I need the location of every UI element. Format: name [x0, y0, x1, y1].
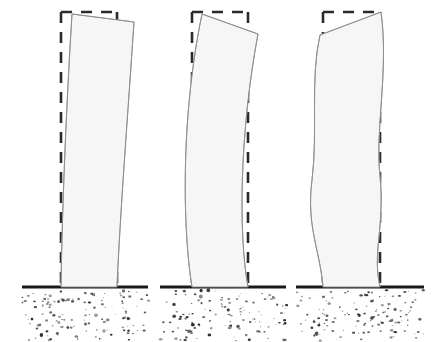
- soil-speckle: [371, 292, 374, 294]
- soil-speckle: [296, 305, 299, 307]
- soil-speckle: [194, 327, 196, 329]
- soil-speckle: [249, 321, 251, 323]
- soil-speckle: [209, 320, 211, 321]
- soil-speckle: [401, 321, 402, 322]
- soil-speckle: [221, 304, 222, 305]
- soil-speckle: [356, 326, 357, 327]
- soil-speckle: [52, 314, 55, 317]
- soil-speckle: [240, 309, 241, 310]
- soil-speckle: [209, 300, 211, 302]
- soil-speckle: [56, 332, 59, 334]
- soil-speckle: [198, 324, 201, 326]
- soil-speckle: [104, 293, 105, 294]
- soil-speckle: [365, 294, 368, 296]
- soil-speckle: [192, 313, 194, 314]
- soil-speckle: [397, 300, 398, 301]
- soil-speckle: [39, 324, 42, 327]
- soil-speckle: [123, 296, 125, 298]
- soil-speckle: [339, 336, 341, 338]
- soil-speckle: [390, 329, 393, 331]
- soil-speckle: [358, 333, 359, 334]
- soil-speckle: [404, 330, 406, 332]
- soil-speckle: [57, 300, 60, 303]
- soil-speckle: [370, 300, 373, 302]
- soil-speckle: [42, 306, 44, 307]
- soil-speckle: [28, 319, 29, 320]
- soil-speckle: [388, 305, 389, 306]
- soil-speckle: [183, 290, 186, 293]
- soil-speckle: [175, 294, 176, 295]
- soil-speckle: [146, 294, 148, 296]
- soil-speckle: [301, 296, 303, 297]
- soil-speckle: [423, 334, 424, 335]
- soil-speckle: [367, 291, 369, 293]
- soil-speckle: [357, 320, 360, 322]
- soil-speckle: [249, 312, 250, 313]
- soil-speckle: [85, 309, 86, 310]
- soil-speckle: [176, 311, 178, 313]
- soil-speckle: [390, 337, 393, 339]
- soil-speckle: [33, 293, 34, 294]
- soil-speckle: [408, 312, 409, 313]
- soil-speckle: [56, 320, 58, 321]
- soil-speckle: [276, 324, 277, 325]
- soil-speckle: [372, 325, 374, 326]
- soil-speckle: [123, 308, 124, 309]
- soil-speckle: [88, 301, 92, 303]
- soil-speckle: [317, 317, 320, 319]
- soil-speckle: [62, 314, 63, 315]
- soil-speckle: [400, 310, 402, 312]
- soil-speckle: [252, 302, 254, 304]
- soil-speckle: [122, 326, 124, 328]
- soil-speckle: [342, 310, 344, 311]
- soil-speckle: [88, 323, 90, 325]
- soil-speckle: [245, 334, 247, 336]
- soil-speckle: [248, 339, 251, 341]
- soil-speckle: [24, 300, 27, 302]
- soil-speckle: [375, 311, 376, 312]
- soil-speckle: [357, 313, 359, 315]
- soil-speckle: [407, 320, 408, 321]
- soil-speckle: [280, 312, 282, 314]
- soil-speckle: [300, 300, 302, 302]
- soil-speckle: [326, 325, 328, 326]
- soil-speckle: [122, 289, 125, 292]
- soil-speckle: [405, 314, 408, 316]
- soil-speckle: [45, 320, 48, 322]
- soil-speckle: [215, 314, 217, 315]
- soil-speckle: [34, 301, 36, 302]
- soil-speckle: [71, 319, 73, 321]
- soil-speckle: [75, 335, 79, 337]
- soil-speckle: [339, 306, 341, 308]
- soil-speckle: [21, 302, 23, 304]
- soil-speckle: [103, 297, 104, 298]
- soil-speckle: [47, 336, 48, 337]
- soil-speckle: [240, 308, 242, 309]
- soil-speckle: [360, 339, 362, 341]
- soil-speckle: [27, 295, 30, 297]
- soil-speckle: [89, 314, 90, 315]
- soil-speckle: [415, 334, 416, 335]
- soil-speckle: [318, 324, 321, 327]
- soil-speckle: [221, 297, 222, 298]
- soil-speckle: [128, 330, 129, 331]
- soil-speckle: [415, 293, 416, 294]
- soil-speckle: [240, 311, 242, 313]
- soil-speckle: [323, 309, 324, 310]
- soil-speckle: [386, 316, 388, 318]
- soil-speckle: [163, 331, 165, 332]
- soil-speckle: [28, 339, 30, 340]
- soil-speckle: [230, 321, 231, 322]
- soil-speckle: [60, 290, 62, 293]
- soil-speckle: [142, 330, 145, 332]
- soil-speckle: [348, 314, 350, 315]
- soil-speckle: [234, 337, 235, 338]
- building-mode-3: [311, 12, 384, 287]
- soil-speckle: [140, 298, 142, 300]
- soil-speckle: [376, 309, 378, 310]
- soil-speckle: [107, 330, 108, 331]
- soil-speckle: [127, 332, 130, 334]
- soil-speckle: [180, 316, 182, 318]
- soil-speckle: [242, 319, 244, 321]
- soil-speckle: [323, 323, 325, 324]
